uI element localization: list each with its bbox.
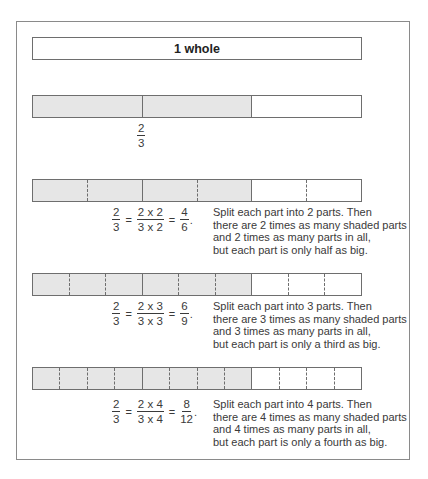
third-part-unshaded — [251, 96, 361, 117]
equation-sixths: 23 = 2 x 23 x 2 = 46 . — [112, 206, 193, 233]
third-part-unshaded — [251, 274, 361, 295]
third-part-shaded — [33, 180, 142, 201]
fraction-rhs: 812 — [180, 398, 193, 425]
numerator: 2 — [137, 122, 145, 136]
third-part-shaded — [33, 274, 142, 295]
fraction-lhs: 23 — [112, 398, 120, 425]
explanation-sixths: Split each part into 2 parts. Then there… — [213, 206, 407, 257]
third-part-shaded — [33, 368, 142, 389]
sixths-bar — [32, 179, 362, 202]
twelfths-bar — [32, 367, 362, 390]
equation-twelfths: 23 = 2 x 43 x 4 = 812 . — [112, 398, 197, 425]
fraction-mid: 2 x 43 x 4 — [137, 398, 164, 425]
third-part-unshaded — [251, 180, 361, 201]
third-part-shaded — [33, 96, 142, 117]
fraction-mid: 2 x 23 x 2 — [137, 206, 164, 233]
fraction-lhs: 23 — [112, 300, 120, 327]
whole-bar: 1 whole — [32, 37, 362, 60]
fraction-lhs: 23 — [112, 206, 120, 233]
whole-label: 1 whole — [174, 42, 220, 56]
fraction-mid: 2 x 33 x 3 — [137, 300, 164, 327]
base-fraction: 2 3 — [137, 122, 145, 149]
equation-ninths: 23 = 2 x 33 x 3 = 69 . — [112, 300, 193, 327]
explanation-twelfths: Split each part into 4 parts. Then there… — [213, 398, 407, 449]
explanation-ninths: Split each part into 3 parts. Then there… — [213, 300, 407, 351]
third-part-shaded — [142, 96, 252, 117]
third-part-shaded — [142, 368, 252, 389]
thirds-bar — [32, 95, 362, 118]
denominator: 3 — [138, 136, 144, 149]
third-part-shaded — [142, 274, 252, 295]
fraction-rhs: 46 — [180, 206, 188, 233]
fraction-rhs: 69 — [180, 300, 188, 327]
third-part-shaded — [142, 180, 252, 201]
ninths-bar — [32, 273, 362, 296]
third-part-unshaded — [251, 368, 361, 389]
